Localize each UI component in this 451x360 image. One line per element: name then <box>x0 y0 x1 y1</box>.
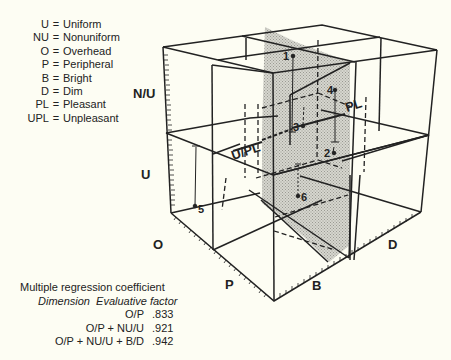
axis-label-nonuniform: N/U <box>133 86 155 101</box>
regression-row: O/P + NU/U.921 <box>20 322 177 336</box>
regression-row: O/P + NU/U + B/D.942 <box>20 335 177 349</box>
regression-row: O/P.833 <box>20 308 177 322</box>
regression-value: .921 <box>144 322 173 336</box>
axis-label-peripheral: P <box>225 277 234 292</box>
regression-header: Dimension Evaluative factor <box>20 295 177 309</box>
point-2-label: 2 <box>324 147 330 159</box>
regression-value: .833 <box>144 308 173 322</box>
point-6-marker <box>296 194 300 198</box>
regression-dimension: O/P + NU/U + B/D <box>20 335 144 349</box>
point-3-label: 3 <box>293 121 299 133</box>
header-dimension: Dimension <box>38 295 90 307</box>
unpleasant-label: U/PL <box>229 139 262 162</box>
axis-label-bright: B <box>312 278 321 293</box>
header-evaluative-factor: Evaluative factor <box>96 295 177 307</box>
regression-value: .942 <box>144 335 173 349</box>
point-1-marker <box>291 54 295 58</box>
regression-dimension: O/P <box>20 308 144 322</box>
regression-dimension: O/P + NU/U <box>20 322 144 336</box>
regression-title: Multiple regression coefficient <box>20 281 177 295</box>
point-4-label: 4 <box>327 84 334 96</box>
axis-label-overhead: O <box>153 237 163 252</box>
point-5-label: 5 <box>198 203 204 215</box>
axis-label-uniform: U <box>141 167 150 182</box>
point-3-marker <box>301 124 305 128</box>
point-6-label: 6 <box>301 191 307 203</box>
point-1-label: 1 <box>283 50 289 62</box>
regression-table: Multiple regression coefficient Dimensio… <box>20 281 177 349</box>
point-2-marker <box>332 151 336 155</box>
point-4-marker <box>333 88 337 92</box>
axis-label-dim: D <box>388 237 397 252</box>
point-5-marker <box>193 204 197 208</box>
